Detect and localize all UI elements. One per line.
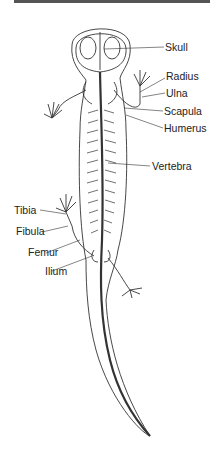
right-front-limb — [114, 86, 140, 107]
right-front-hand — [134, 70, 150, 86]
label-ilium: Ilium — [45, 265, 67, 277]
label-ulna: Ulna — [166, 87, 188, 99]
label-skull: Skull — [165, 41, 188, 53]
left-hind-foot — [56, 194, 76, 212]
label-scapula: Scapula — [164, 105, 202, 117]
left-front-hand — [44, 102, 62, 118]
label-vertebra: Vertebra — [152, 160, 192, 172]
right-orbit — [104, 37, 120, 59]
left-hind-limb — [66, 212, 94, 256]
label-tibia: Tibia — [14, 204, 36, 216]
label-femur: Femur — [28, 246, 58, 258]
right-hind-foot — [122, 288, 142, 298]
label-fibula: Fibula — [16, 225, 45, 237]
label-humerus: Humerus — [164, 122, 207, 134]
label-radius: Radius — [166, 70, 199, 82]
left-orbit — [80, 37, 96, 59]
